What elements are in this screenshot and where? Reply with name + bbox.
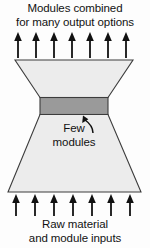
hourglass-modularity-diagram: Modules combined for many output options… [0,0,150,248]
few-modules-line-1: Few [44,122,104,136]
few-modules-band [40,98,108,115]
bottom-arrow-group [12,194,134,216]
arrow-up-icon [126,194,134,216]
arrow-up-icon [107,194,115,216]
arrow-up-icon [68,32,76,58]
output-options-trapezoid [15,60,133,98]
top-caption-line-1: Modules combined [0,2,150,16]
top-caption: Modules combined for many output options [0,2,150,29]
arrow-up-icon [31,194,39,216]
arrow-up-icon [86,32,94,58]
arrow-up-icon [32,32,40,58]
few-modules-line-2: modules [44,136,104,150]
few-modules-label: Few modules [44,122,104,149]
arrow-up-icon [50,194,58,216]
top-caption-line-2: for many output options [0,16,150,30]
bottom-caption-line-1: Raw material [0,218,150,232]
arrow-up-icon [69,194,77,216]
bottom-caption-line-2: and module inputs [0,232,150,246]
arrow-up-icon [122,32,130,58]
arrow-up-icon [88,194,96,216]
arrow-up-icon [12,194,20,216]
bottom-caption: Raw material and module inputs [0,218,150,245]
arrow-up-icon [104,32,112,58]
top-arrow-group [14,32,130,58]
arrow-up-icon [50,32,58,58]
arrow-up-icon [14,32,22,58]
